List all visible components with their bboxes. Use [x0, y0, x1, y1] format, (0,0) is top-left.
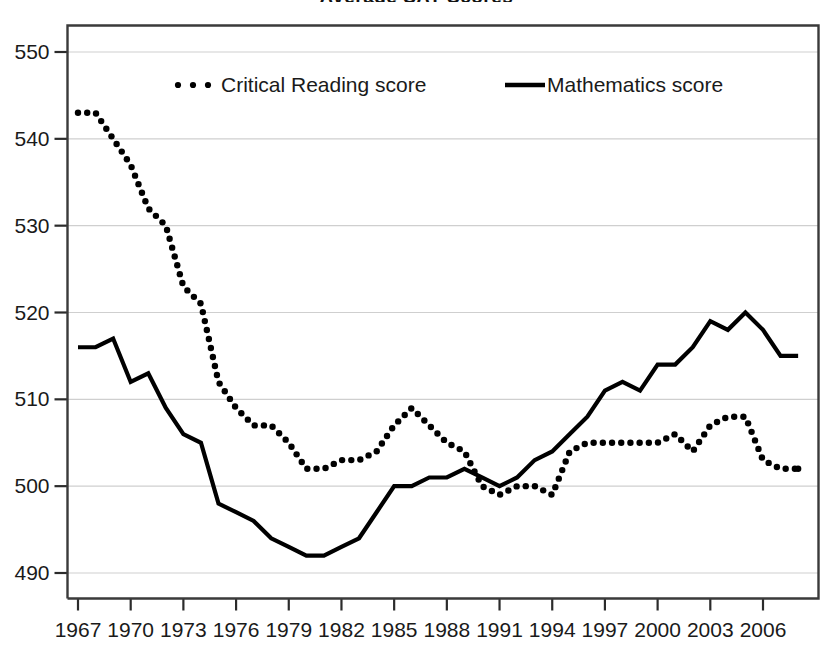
sat-scores-chart: Average SAT Scores 490500510520530540550… — [0, 0, 833, 645]
critical-reading-dot — [288, 444, 294, 450]
critical-reading-dot — [562, 458, 568, 464]
critical-reading-dot — [204, 327, 210, 333]
critical-reading-dot — [210, 354, 216, 360]
critical-reading-dot — [357, 456, 363, 462]
critical-reading-dot — [765, 460, 771, 466]
critical-reading-dot — [191, 294, 197, 300]
critical-reading-dot — [655, 439, 661, 445]
critical-reading-dot — [513, 483, 519, 489]
series-critical-reading — [75, 110, 802, 498]
critical-reading-dot — [740, 414, 746, 420]
critical-reading-dot — [214, 372, 220, 378]
critical-reading-dot — [795, 466, 801, 472]
critical-reading-dot — [552, 484, 558, 490]
critical-reading-dot — [714, 419, 720, 425]
critical-reading-dot — [609, 440, 615, 446]
critical-reading-dot — [415, 411, 421, 417]
critical-reading-dot — [146, 206, 152, 212]
critical-reading-dot — [566, 450, 572, 456]
critical-reading-dot — [166, 236, 172, 242]
critical-reading-dot — [293, 451, 299, 457]
legend-label-critical-reading: Critical Reading score — [221, 73, 426, 96]
critical-reading-dot — [706, 424, 712, 430]
critical-reading-dot — [108, 133, 114, 139]
critical-reading-dot — [559, 467, 565, 473]
critical-reading-dot — [696, 439, 702, 445]
x-tick-label-2003: 2003 — [687, 618, 734, 641]
critical-reading-dot — [497, 491, 503, 497]
critical-reading-dot — [600, 440, 606, 446]
critical-reading-dot — [374, 448, 380, 454]
critical-reading-dot — [774, 464, 780, 470]
y-tick-label-520: 520 — [14, 301, 49, 324]
critical-reading-dot — [252, 422, 258, 428]
critical-reading-dot — [467, 460, 473, 466]
critical-reading-dot — [556, 475, 562, 481]
legend-dot-1 — [175, 82, 181, 88]
critical-reading-dot — [208, 345, 214, 351]
critical-reading-dot — [128, 164, 134, 170]
x-tick-label-1976: 1976 — [213, 618, 260, 641]
critical-reading-dot — [540, 487, 546, 493]
critical-reading-dot — [434, 430, 440, 436]
critical-reading-dot — [153, 213, 159, 219]
x-tick-label-1991: 1991 — [476, 618, 523, 641]
critical-reading-dot — [379, 440, 385, 446]
critical-reading-dot — [172, 253, 178, 259]
critical-reading-dot — [365, 452, 371, 458]
critical-reading-dot — [748, 429, 754, 435]
critical-reading-dot — [523, 483, 529, 489]
critical-reading-dot — [480, 484, 486, 490]
critical-reading-dot — [245, 416, 251, 422]
critical-reading-dot — [348, 457, 354, 463]
x-tick-label-1967: 1967 — [55, 618, 102, 641]
critical-reading-dot — [216, 380, 222, 386]
x-axis-tick-labels: 1967197019731976197919821985198819911994… — [55, 618, 787, 641]
critical-reading-dot — [441, 437, 447, 443]
critical-reading-dot — [448, 442, 454, 448]
critical-reading-dot — [261, 422, 267, 428]
legend-dot-3 — [205, 82, 211, 88]
x-axis-ticks — [78, 599, 763, 611]
critical-reading-dot — [174, 262, 180, 268]
critical-reading-dot — [276, 430, 282, 436]
y-tick-label-530: 530 — [14, 214, 49, 237]
critical-reading-dot — [177, 271, 183, 277]
critical-reading-dot — [98, 118, 104, 124]
critical-reading-dot — [691, 446, 697, 452]
critical-reading-dot — [395, 418, 401, 424]
y-tick-label-510: 510 — [14, 387, 49, 410]
critical-reading-dot — [304, 466, 310, 472]
critical-reading-dot — [489, 488, 495, 494]
critical-reading-dot — [532, 483, 538, 489]
critical-reading-dot — [206, 336, 212, 342]
x-tick-label-1979: 1979 — [265, 618, 312, 641]
x-tick-label-1973: 1973 — [160, 618, 207, 641]
critical-reading-dot — [227, 396, 233, 402]
critical-reading-dot — [573, 445, 579, 451]
critical-reading-dot — [463, 452, 469, 458]
gridlines — [55, 52, 819, 573]
critical-reading-dot — [169, 244, 175, 250]
critical-reading-dot — [322, 465, 328, 471]
critical-reading-dot — [202, 318, 208, 324]
critical-reading-dot — [139, 189, 145, 195]
critical-reading-dot — [389, 425, 395, 431]
y-tick-label-490: 490 — [14, 561, 49, 584]
critical-reading-dot — [282, 436, 288, 442]
critical-reading-dot — [663, 435, 669, 441]
legend-label-mathematics: Mathematics score — [547, 73, 723, 96]
critical-reading-dot — [93, 110, 99, 116]
critical-reading-dot — [590, 440, 596, 446]
y-tick-label-500: 500 — [14, 474, 49, 497]
critical-reading-dot — [582, 441, 588, 447]
critical-reading-dot — [636, 440, 642, 446]
x-tick-label-2000: 2000 — [634, 618, 681, 641]
critical-reading-dot — [238, 410, 244, 416]
chart-legend: Critical Reading score Mathematics score — [175, 73, 723, 96]
critical-reading-dot — [269, 424, 275, 430]
critical-reading-dot — [119, 148, 125, 154]
critical-reading-dot — [782, 466, 788, 472]
critical-reading-dot — [759, 454, 765, 460]
critical-reading-dot — [159, 219, 165, 225]
